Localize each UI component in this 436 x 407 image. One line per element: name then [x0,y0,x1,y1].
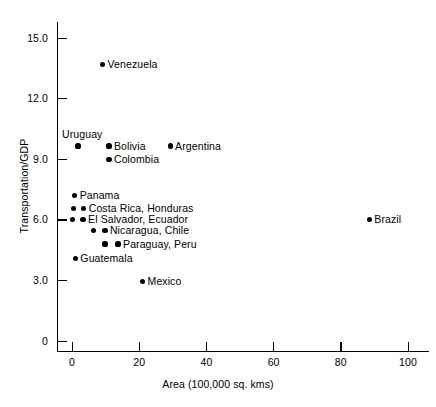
data-point-label: Uruguay [62,129,102,140]
data-point-label: Venezuela [108,59,158,70]
data-point [140,279,145,284]
data-point [106,143,111,148]
scatter-plot: 03.06.09.012.015.0 020406080100 Venezuel… [0,0,436,407]
data-point [102,228,107,233]
y-axis-title: Transportation/GDP [18,96,30,276]
x-axis-tick-label: 80 [321,357,361,368]
data-point-label: Paraguay, Peru [123,239,197,250]
data-point-label: Argentina [175,141,221,152]
y-axis-tick-label: 0 [4,336,48,347]
x-axis-tick-label: 20 [119,357,159,368]
data-point [71,206,76,211]
data-point [75,143,80,148]
x-axis-tick [72,342,73,351]
data-point-label: Brazil [374,214,401,225]
data-point [72,193,77,198]
data-point [91,228,96,233]
x-axis-title: Area (100,000 sq. kms) [0,378,436,390]
data-point-label: El Salvador, Ecuador [88,214,188,225]
data-point-label: Costa Rica, Honduras [89,203,194,214]
x-axis-tick [206,342,207,351]
y-axis-tick [58,159,67,160]
data-point-label: Nicaragua, Chile [110,225,189,236]
x-axis-line [57,351,429,352]
data-point [367,217,372,222]
data-point-label: Panama [80,190,120,201]
y-axis-line [57,22,58,352]
x-axis-tick-label: 0 [52,357,92,368]
data-point [115,241,120,246]
y-axis-tick [58,280,67,281]
y-axis-tick [58,219,67,220]
data-point-label: Colombia [114,154,159,165]
x-axis-tick [340,342,341,351]
y-axis-tick [58,98,67,99]
y-axis-tick [58,341,67,342]
data-point [102,241,107,246]
y-axis-tick-label: 3.0 [4,275,48,286]
x-axis-tick [408,342,409,351]
data-point [80,217,85,222]
x-axis-tick-label: 100 [388,357,428,368]
y-axis-tick [58,38,67,39]
y-axis-tick-label: 15.0 [4,33,48,44]
data-point [106,157,111,162]
data-point-label: Mexico [148,276,182,287]
data-point-label: Guatemala [80,253,132,264]
data-point [81,206,86,211]
data-point [168,143,173,148]
x-axis-tick-label: 60 [254,357,294,368]
x-axis-tick-label: 40 [186,357,226,368]
x-axis-tick [273,342,274,351]
data-point [70,217,75,222]
data-point [73,256,78,261]
x-axis-tick [139,342,140,351]
data-point-label: Bolivia [114,141,146,152]
data-point [100,62,105,67]
